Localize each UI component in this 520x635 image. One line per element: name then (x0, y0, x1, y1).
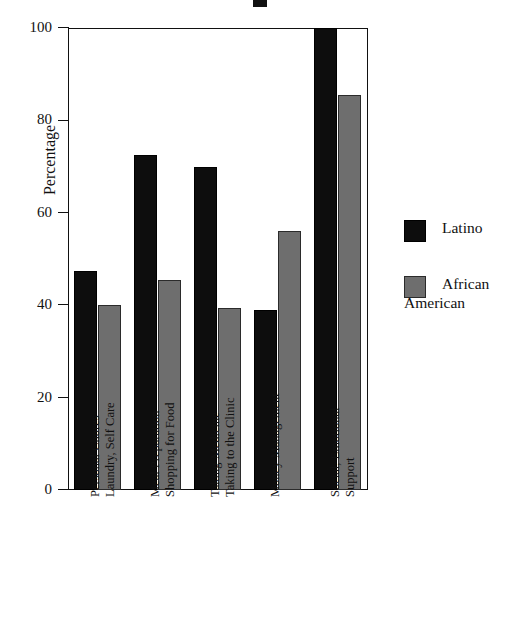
x-axis-category-text-1: Meal PreparationShopping for Food (148, 403, 177, 497)
bar-chart: Percentage 020406080100 Personal ChoresL… (0, 0, 520, 635)
y-axis-tick-label-20: 20 (6, 390, 52, 405)
x-axis-category-0: Personal ChoresLaundry, Self Care (88, 497, 90, 499)
legend-swatch-latino (404, 220, 426, 242)
x-axis-category-text-2: Taking MedicineTaking to the Clinic (208, 398, 237, 497)
x-axis-category-text-0: Personal ChoresLaundry, Self Care (88, 402, 117, 497)
y-axis-tick-label-40: 40 (6, 297, 52, 312)
y-axis-tick-label-80: 80 (6, 112, 52, 127)
x-axis-category-1-line-1: Shopping for Food (163, 403, 178, 497)
cropped-title-mark (253, 0, 267, 7)
x-axis-category-4: Social, EmotionalSupport (328, 497, 330, 499)
x-axis-category-2-line-1: Taking to the Clinic (223, 398, 238, 497)
legend-item-african-american[interactable]: African American (404, 274, 516, 312)
x-axis-category-4-line-1: Support (343, 407, 358, 497)
x-axis-category-1-line-0: Meal Preparation (148, 403, 163, 497)
y-axis-tick-label-100: 100 (6, 20, 52, 35)
x-axis-category-text-3: Money Management (268, 393, 283, 497)
y-axis-tick-label-60: 60 (6, 205, 52, 220)
legend-label-line-1: African (442, 275, 489, 292)
legend-item-latino[interactable]: Latino (404, 218, 516, 252)
legend: Latino African American (404, 218, 516, 334)
x-axis-category-text-4: Social, EmotionalSupport (328, 407, 357, 497)
x-axis-category-0-line-0: Personal Chores (88, 402, 103, 497)
legend-swatch-african-american (404, 276, 426, 298)
x-axis-category-1: Meal PreparationShopping for Food (148, 497, 150, 499)
x-axis-category-3-line-0: Money Management (268, 393, 283, 497)
legend-label-latino: Latino (442, 219, 482, 236)
x-axis-category-0-line-1: Laundry, Self Care (103, 402, 118, 497)
x-axis-category-2: Taking MedicineTaking to the Clinic (208, 497, 210, 499)
y-axis-tick-label-0: 0 (6, 482, 52, 497)
x-axis-category-2-line-0: Taking Medicine (208, 398, 223, 497)
x-axis-category-3: Money Management (268, 497, 270, 499)
x-axis-category-4-line-0: Social, Emotional (328, 407, 343, 497)
